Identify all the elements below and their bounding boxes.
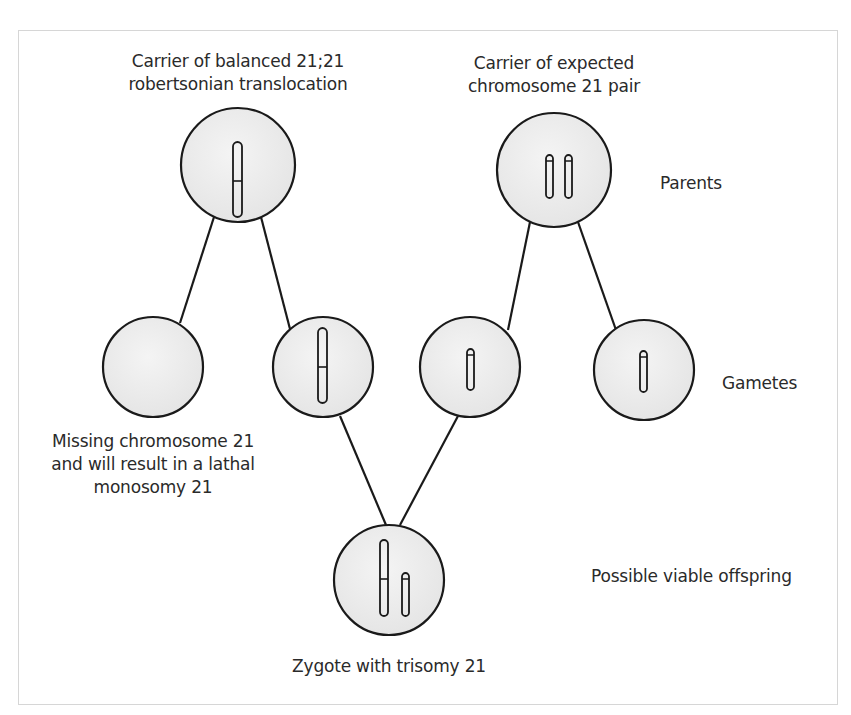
pedigree-diagram <box>0 0 851 715</box>
parent-right-caption-line-2: chromosome 21 pair <box>454 75 654 98</box>
missing-gamete-caption-line-1: Missing chromosome 21 <box>28 430 278 453</box>
missing-gamete-caption-line-2: and will result in a lathal <box>28 453 278 476</box>
edge-parent-right-gamete-3 <box>508 222 530 330</box>
parent-right-caption-line-1: Carrier of expected <box>454 52 654 75</box>
zygote-caption: Zygote with trisomy 21 <box>289 655 489 678</box>
parent-right-cell <box>497 113 611 227</box>
row-label-gametes: Gametes <box>722 372 797 395</box>
row-label-offspring: Possible viable offspring <box>591 565 792 588</box>
parent-left-caption-line-2: robertsonian translocation <box>118 73 358 96</box>
edge-parent-left-gamete-1 <box>180 217 214 323</box>
gamete-1-empty-cell <box>103 317 203 417</box>
row-label-parents: Parents <box>660 172 722 195</box>
parent-left-cell <box>181 108 295 222</box>
parent-left-caption: Carrier of balanced 21;21 robertsonian t… <box>118 50 358 96</box>
zygote-cell <box>334 525 444 635</box>
edge-parent-left-gamete-2 <box>261 217 290 329</box>
edge-gamete-2-zygote <box>340 416 386 525</box>
gamete-2-cell <box>273 317 373 417</box>
missing-gamete-caption-line-3: monosomy 21 <box>28 476 278 499</box>
edge-parent-right-gamete-4 <box>578 222 616 330</box>
gamete-3-cell <box>420 317 520 417</box>
parent-right-caption: Carrier of expected chromosome 21 pair <box>454 52 654 98</box>
missing-gamete-caption: Missing chromosome 21 and will result in… <box>28 430 278 499</box>
edge-gamete-3-zygote <box>400 416 458 525</box>
parent-left-caption-line-1: Carrier of balanced 21;21 <box>118 50 358 73</box>
gamete-4-cell <box>594 320 694 420</box>
